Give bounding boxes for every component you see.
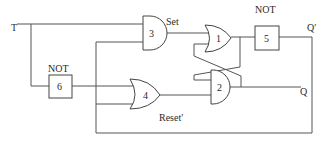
reset-label: Reset′ [159, 112, 183, 123]
q-label: Q [300, 86, 308, 97]
gate-2-label: 2 [217, 82, 222, 93]
gate-5-label: 5 [264, 33, 269, 44]
gate-1-label: 1 [216, 33, 221, 44]
not-gate-6: NOT 6 [48, 63, 72, 98]
wire-qprime-feedback [96, 37, 312, 133]
not-gate-5: NOT 5 [255, 4, 279, 50]
gate-2-and: 2 [211, 70, 230, 104]
not-left-label: NOT [48, 63, 69, 74]
gate-6-label: 6 [57, 81, 62, 92]
gate-1-or: 1 [205, 25, 231, 52]
gate-4-or: 4 [130, 79, 160, 109]
input-t-label: T [11, 22, 17, 33]
gate-3-and: 3 [143, 16, 167, 50]
gate-4-label: 4 [143, 90, 148, 101]
logic-circuit-diagram: T [0, 0, 327, 147]
not-top-label: NOT [255, 4, 276, 15]
gate-3-label: 3 [149, 28, 154, 39]
wire-t-to-not6 [31, 24, 49, 86]
set-label: Set [166, 16, 179, 27]
q-prime-label: Q′ [307, 22, 316, 33]
